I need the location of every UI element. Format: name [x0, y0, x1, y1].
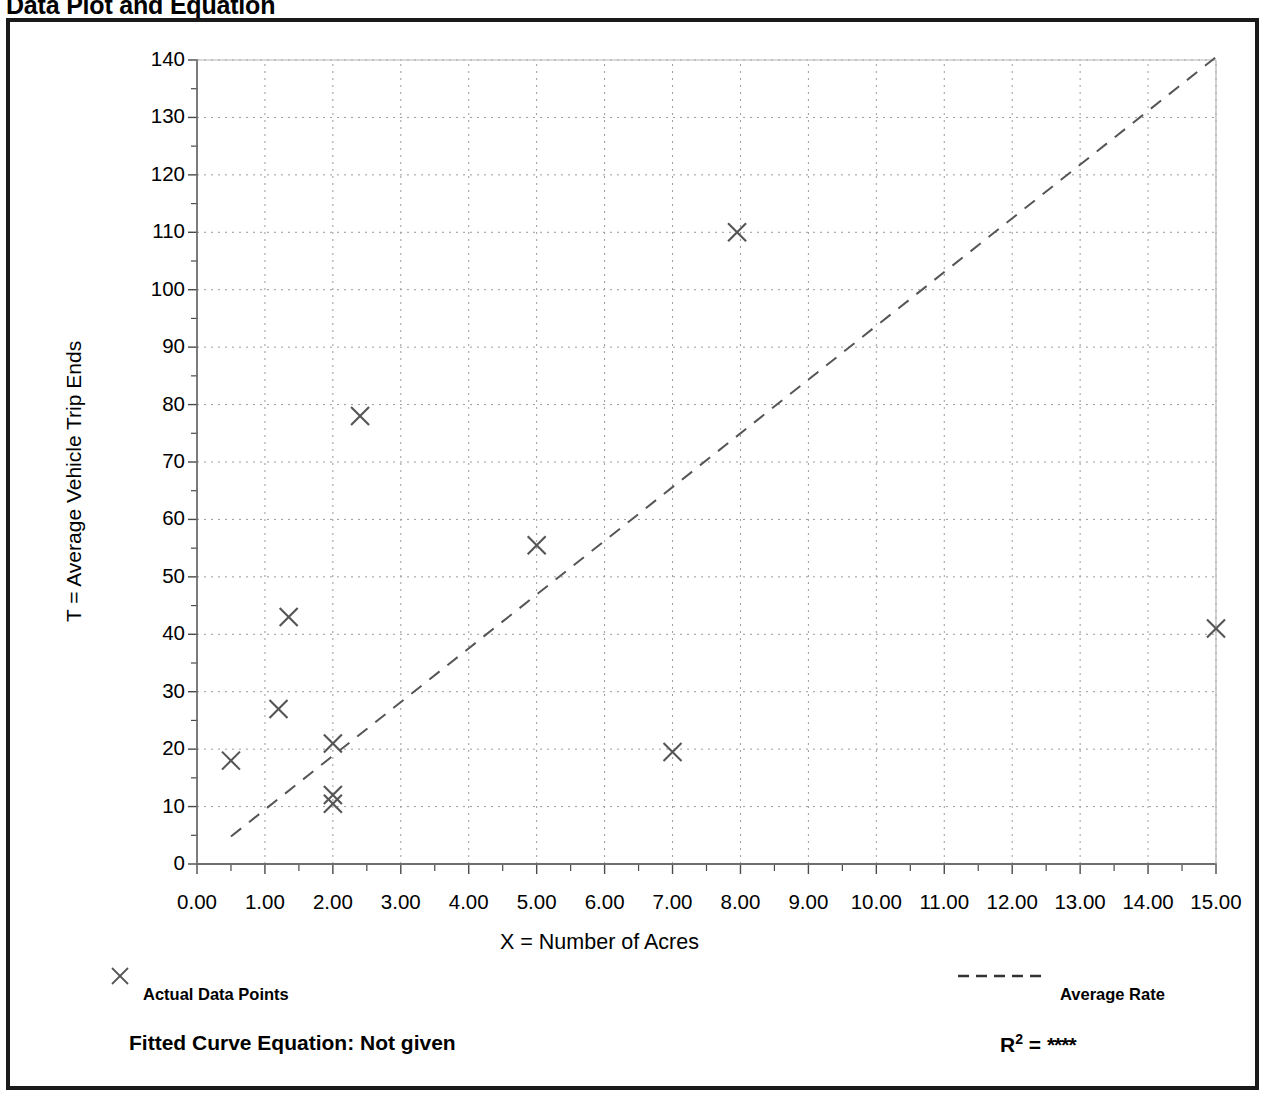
y-axis-tick-label: 130 — [85, 104, 185, 128]
y-axis-tick-label: 40 — [85, 621, 185, 645]
y-axis-tick-label: 110 — [85, 219, 185, 243]
y-axis-tick-label: 70 — [85, 449, 185, 473]
y-axis-tick-label: 140 — [85, 47, 185, 71]
r-squared-text: R2 = **** — [1000, 1031, 1076, 1057]
y-axis-tick-label: 80 — [85, 392, 185, 416]
data-point-marker — [280, 608, 298, 626]
page-title: Data Plot and Equation — [6, 0, 275, 20]
y-axis-tick-label: 100 — [85, 277, 185, 301]
average-rate-trend-line — [231, 57, 1216, 836]
data-point-marker — [528, 536, 546, 554]
y-axis-tick-label: 0 — [85, 851, 185, 875]
y-axis-tick-label: 90 — [85, 334, 185, 358]
chart-figure-frame: 0102030405060708090100110120130140 0.001… — [6, 18, 1259, 1090]
y-axis-tick-label: 60 — [85, 506, 185, 530]
legend-symbols-layer — [112, 968, 1043, 984]
scatter-plot-canvas — [10, 22, 1255, 1086]
data-series-layer — [222, 57, 1225, 836]
legend-label-average-rate: Average Rate — [1060, 985, 1165, 1004]
r-squared-symbol: R — [1000, 1033, 1015, 1056]
r-squared-value: **** — [1047, 1033, 1076, 1056]
x-axis-title: X = Number of Acres — [500, 930, 699, 955]
y-axis-title: T = Average Vehicle Trip Ends — [62, 341, 86, 622]
y-axis-tick-label: 10 — [85, 794, 185, 818]
data-point-marker — [324, 786, 342, 804]
x-axis-tick-label: 15.00 — [1176, 890, 1256, 914]
y-axis-tick-label: 30 — [85, 679, 185, 703]
data-point-marker — [351, 407, 369, 425]
legend-marker-x — [112, 968, 128, 984]
data-point-marker — [222, 752, 240, 770]
legend-label-actual-data-points: Actual Data Points — [143, 985, 289, 1004]
data-point-marker — [324, 795, 342, 813]
y-axis-tick-label: 50 — [85, 564, 185, 588]
data-point-marker — [270, 700, 288, 718]
y-axis-tick-label: 120 — [85, 162, 185, 186]
y-axis-tick-label: 20 — [85, 736, 185, 760]
fitted-curve-equation-text: Fitted Curve Equation: Not given — [129, 1031, 456, 1055]
r-squared-equals: = — [1023, 1033, 1047, 1056]
r-squared-exponent: 2 — [1015, 1031, 1023, 1047]
